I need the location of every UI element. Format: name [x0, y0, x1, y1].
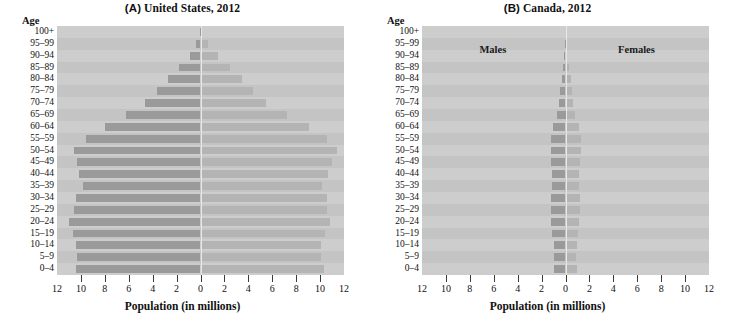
- x-axis-tick: [320, 275, 321, 282]
- x-axis-tick: [518, 275, 519, 282]
- x-axis-tick-label: 2: [222, 284, 227, 294]
- x-axis-tick: [248, 275, 249, 282]
- bar-males: [553, 123, 566, 131]
- bar-females: [201, 123, 310, 131]
- x-axis-tick: [685, 275, 686, 282]
- x-axis-tick: [105, 275, 106, 282]
- bar-males: [551, 147, 566, 155]
- age-tick-label: 0–4: [0, 264, 54, 274]
- panel-title: (A) United States, 2012: [0, 2, 365, 14]
- x-axis-tick: [566, 275, 567, 282]
- age-tick-label: 100+: [0, 27, 54, 37]
- bar-females: [566, 241, 577, 249]
- bar-males: [551, 218, 565, 226]
- bar-males: [145, 99, 200, 107]
- bar-males: [105, 123, 201, 131]
- x-axis-tick-label: 12: [52, 284, 62, 294]
- bar-females: [201, 64, 231, 72]
- x-axis-tick-label: 8: [294, 284, 299, 294]
- x-axis-tick-label: 10: [680, 284, 690, 294]
- bar-males: [126, 111, 200, 119]
- x-axis-tick: [446, 275, 447, 282]
- bar-males: [83, 182, 200, 190]
- x-axis-tick: [129, 275, 130, 282]
- x-axis-tick: [637, 275, 638, 282]
- x-axis-tick-label: 2: [587, 284, 592, 294]
- panel-title: (B) Canada, 2012: [365, 2, 730, 14]
- bar-females: [566, 111, 576, 119]
- age-tick-label: 85–89: [365, 63, 419, 73]
- bar-females: [201, 206, 328, 214]
- x-axis-tick: [201, 275, 202, 282]
- bar-females: [566, 194, 580, 202]
- bar-males: [557, 111, 566, 119]
- age-tick-label: 40–44: [365, 169, 419, 179]
- x-axis-tick-label: 6: [270, 284, 275, 294]
- x-axis-tick: [81, 275, 82, 282]
- age-tick-label: 90–94: [365, 51, 419, 61]
- bar-males: [551, 158, 565, 166]
- bar-females: [201, 135, 328, 143]
- age-tick-label: 60–64: [365, 122, 419, 132]
- age-tick-label: 30–34: [365, 193, 419, 203]
- age-tick-label: 20–24: [0, 217, 54, 227]
- bar-males: [76, 241, 200, 249]
- x-axis-title: Population (in millions): [0, 300, 365, 312]
- age-tick-label: 50–54: [365, 146, 419, 156]
- age-axis-header: Age: [387, 15, 405, 26]
- age-tick-label: 90–94: [0, 51, 54, 61]
- panel-tag: (B): [504, 2, 520, 14]
- age-tick-label: 60–64: [0, 122, 54, 132]
- bar-females: [566, 230, 579, 238]
- x-axis-tick: [296, 275, 297, 282]
- age-tick-label: 30–34: [0, 193, 54, 203]
- bar-males: [552, 170, 566, 178]
- age-tick-label: 80–84: [0, 74, 54, 84]
- age-tick-label: 25–29: [0, 205, 54, 215]
- bar-females: [566, 182, 580, 190]
- age-tick-label: 40–44: [0, 169, 54, 179]
- zero-axis-line: [566, 26, 567, 275]
- age-tick-label: 75–79: [0, 86, 54, 96]
- x-axis-tick-label: 2: [539, 284, 544, 294]
- x-axis-tick: [613, 275, 614, 282]
- age-tick-label: 35–39: [0, 181, 54, 191]
- bar-females: [566, 265, 577, 273]
- bar-females: [201, 170, 329, 178]
- bar-males: [157, 87, 200, 95]
- age-tick-label: 95–99: [0, 39, 54, 49]
- plot-area: [422, 26, 709, 275]
- bar-males: [168, 75, 200, 83]
- age-tick-label: 50–54: [0, 146, 54, 156]
- bar-females: [201, 194, 328, 202]
- bar-females: [566, 99, 574, 107]
- bar-males: [554, 265, 566, 273]
- plot-area: [57, 26, 344, 275]
- age-tick-label: 65–69: [0, 110, 54, 120]
- bar-females: [201, 253, 322, 261]
- bar-males: [77, 253, 200, 261]
- bar-females: [566, 123, 579, 131]
- x-axis-tick-label: 12: [417, 284, 427, 294]
- bar-females: [566, 147, 582, 155]
- bar-females: [201, 158, 333, 166]
- x-axis-tick-label: 8: [659, 284, 664, 294]
- x-axis-tick: [224, 275, 225, 282]
- x-axis-tick-label: 10: [441, 284, 451, 294]
- bar-males: [552, 230, 565, 238]
- bar-males: [551, 135, 566, 143]
- x-axis-tick-label: 4: [246, 284, 251, 294]
- bar-males: [86, 135, 201, 143]
- x-axis-tick-label: 4: [150, 284, 155, 294]
- x-axis-tick: [470, 275, 471, 282]
- bar-females: [201, 99, 267, 107]
- age-tick-label: 5–9: [0, 252, 54, 262]
- age-tick-label: 25–29: [365, 205, 419, 215]
- x-axis-tick: [153, 275, 154, 282]
- bar-females: [201, 265, 324, 273]
- bar-males: [73, 230, 201, 238]
- females-legend-label: Females: [618, 44, 655, 55]
- age-tick-label: 45–49: [365, 157, 419, 167]
- bar-females: [201, 230, 325, 238]
- x-axis-tick-label: 6: [491, 284, 496, 294]
